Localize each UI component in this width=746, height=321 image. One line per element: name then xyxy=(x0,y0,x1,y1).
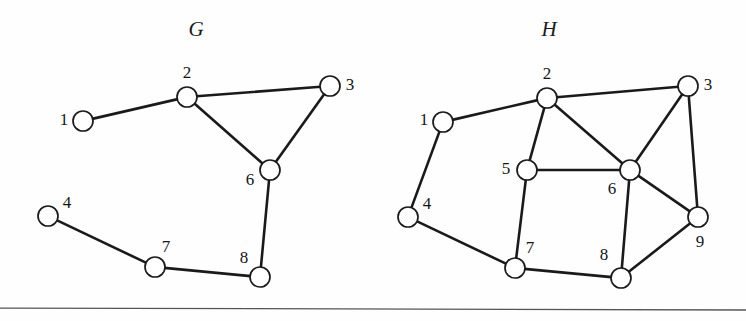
edge-3-6 xyxy=(276,94,325,163)
node-label-7: 7 xyxy=(526,238,535,257)
edge-8-9 xyxy=(628,223,690,272)
node-8[interactable] xyxy=(611,268,631,288)
edge-1-2 xyxy=(452,100,537,120)
graph-canvas: 1234678G123456789H xyxy=(0,0,746,321)
node-label-9: 9 xyxy=(696,232,705,251)
node-label-7: 7 xyxy=(162,237,171,256)
graph-h-title: H xyxy=(540,17,558,41)
edge-6-9 xyxy=(638,175,690,211)
node-label-2: 2 xyxy=(183,63,192,82)
graph-g: 1234678G xyxy=(38,17,354,287)
node-3[interactable] xyxy=(678,76,698,96)
graph-g-nodes: 1234678 xyxy=(38,63,354,287)
node-5[interactable] xyxy=(517,160,537,180)
node-1[interactable] xyxy=(433,112,453,132)
node-label-8: 8 xyxy=(600,245,609,264)
edge-6-8 xyxy=(622,179,629,268)
graph-h: 123456789H xyxy=(398,17,712,288)
edge-1-2 xyxy=(92,99,177,119)
node-label-4: 4 xyxy=(63,193,72,212)
separator-rule xyxy=(0,308,746,310)
graph-h-nodes: 123456789 xyxy=(398,64,712,288)
edge-2-6 xyxy=(194,103,263,163)
node-7[interactable] xyxy=(145,257,165,277)
edge-4-7 xyxy=(57,220,147,263)
node-8[interactable] xyxy=(250,267,270,287)
graph-h-edges xyxy=(411,87,697,277)
node-label-1: 1 xyxy=(420,110,429,129)
edge-7-8 xyxy=(164,268,250,276)
edge-2-3 xyxy=(196,87,320,97)
node-6[interactable] xyxy=(260,160,280,180)
edge-3-9 xyxy=(689,95,698,207)
node-label-5: 5 xyxy=(502,159,511,178)
node-3[interactable] xyxy=(320,76,340,96)
node-4[interactable] xyxy=(38,206,58,226)
node-1[interactable] xyxy=(73,111,93,131)
node-label-4: 4 xyxy=(423,194,432,213)
node-9[interactable] xyxy=(688,207,708,227)
edge-2-5 xyxy=(530,107,545,161)
graph-figure: 1234678G123456789H xyxy=(0,0,746,321)
edge-2-6 xyxy=(554,104,623,164)
graph-g-title: G xyxy=(188,17,203,41)
edge-5-7 xyxy=(516,179,526,258)
node-7[interactable] xyxy=(505,258,525,278)
node-label-3: 3 xyxy=(346,75,355,94)
node-label-2: 2 xyxy=(543,64,552,83)
node-label-6: 6 xyxy=(608,179,617,198)
edge-6-8 xyxy=(261,179,269,267)
edge-3-6 xyxy=(635,94,682,162)
node-6[interactable] xyxy=(620,160,640,180)
node-label-1: 1 xyxy=(60,110,69,129)
node-4[interactable] xyxy=(398,207,418,227)
node-label-3: 3 xyxy=(704,75,713,94)
node-label-8: 8 xyxy=(240,248,249,267)
edge-4-7 xyxy=(417,221,507,264)
edge-7-8 xyxy=(524,269,611,277)
node-label-6: 6 xyxy=(246,170,255,189)
edge-2-3 xyxy=(556,87,678,97)
graph-g-edges xyxy=(57,87,325,276)
node-2[interactable] xyxy=(537,88,557,108)
node-2[interactable] xyxy=(177,87,197,107)
